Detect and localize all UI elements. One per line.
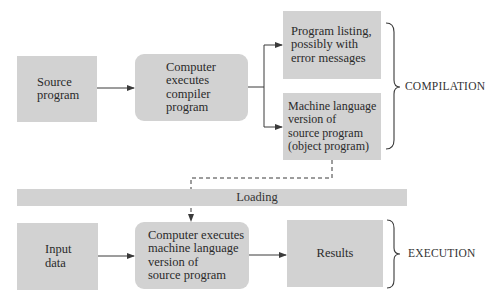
arrow-compiler-to-object (264, 87, 282, 127)
arrow-compiler-to-listing (247, 45, 282, 87)
program-listing-label: Program listing, possibly with error mes… (291, 25, 372, 66)
compiler-execution-label: Computer executes compiler program (166, 61, 216, 115)
input-data-label: Input data (45, 243, 71, 270)
compiler-execution-box: Computer executes compiler program (135, 54, 248, 121)
loading-bar: Loading (17, 189, 407, 206)
compilation-brace-icon (386, 23, 400, 149)
execution-phase-label: EXECUTION (408, 247, 476, 259)
loading-label: Loading (236, 190, 278, 205)
execution-brace-icon (387, 220, 400, 288)
compilation-phase-label: COMPILATION (405, 80, 485, 92)
object-program-box: Machine language version of source progr… (283, 93, 381, 160)
input-data-box: Input data (17, 223, 98, 290)
program-listing-box: Program listing, possibly with error mes… (283, 11, 381, 79)
program-execution-box: Computer executes machine language versi… (135, 222, 249, 289)
program-execution-label: Computer executes machine language versi… (148, 229, 244, 283)
source-program-label: Source program (37, 76, 79, 103)
results-box: Results (287, 220, 383, 287)
object-program-label: Machine language version of source progr… (288, 100, 376, 154)
results-label: Results (317, 247, 354, 261)
source-program-box: Source program (17, 56, 97, 122)
